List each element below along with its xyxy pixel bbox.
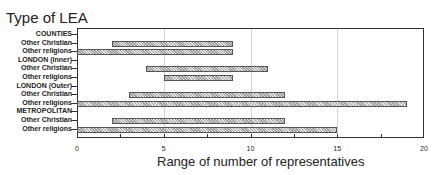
- group-label: COUNTIES: [36, 30, 72, 38]
- x-tick-label: 5: [162, 145, 166, 152]
- range-bar: [77, 101, 407, 107]
- x-tick-label: 10: [247, 145, 255, 152]
- y-tick: [71, 111, 77, 112]
- range-bar: [77, 49, 233, 55]
- range-bar: [112, 41, 233, 47]
- x-tick: [251, 134, 252, 138]
- group-label: LONDON (Inner): [18, 56, 72, 64]
- category-label: Other religions: [22, 99, 72, 107]
- category-label: Other Christian: [21, 90, 72, 98]
- x-tick-label: 0: [75, 145, 79, 152]
- y-tick: [71, 60, 77, 61]
- group-label: METROPOLITAN: [17, 107, 72, 115]
- y-tick: [71, 94, 77, 95]
- range-bar: [77, 127, 337, 133]
- range-bar: [129, 92, 285, 98]
- category-label: Other Christian: [21, 116, 72, 124]
- y-tick: [71, 51, 77, 52]
- x-tick: [294, 134, 295, 138]
- category-label: Other religions: [22, 47, 72, 55]
- y-tick: [71, 129, 77, 130]
- group-label: LONDON (Outer): [16, 82, 72, 90]
- x-tick: [381, 134, 382, 138]
- gridline: [337, 29, 338, 137]
- x-tick: [207, 134, 208, 138]
- y-tick: [71, 77, 77, 78]
- x-tick-label: 20: [420, 145, 428, 152]
- y-tick: [71, 68, 77, 69]
- x-tick: [164, 134, 165, 138]
- range-bar: [112, 118, 286, 124]
- category-label: Other Christian: [21, 64, 72, 72]
- x-tick: [120, 134, 121, 138]
- category-label: Other Christian: [21, 39, 72, 47]
- range-bar: [164, 75, 233, 81]
- y-tick: [71, 103, 77, 104]
- y-tick: [71, 34, 77, 35]
- y-tick: [71, 86, 77, 87]
- x-tick: [337, 134, 338, 138]
- category-label: Other religions: [22, 125, 72, 133]
- y-tick: [71, 43, 77, 44]
- x-tick-label: 15: [333, 145, 341, 152]
- plot-area: [77, 28, 424, 138]
- range-bar: [146, 66, 267, 72]
- category-label: Other religions: [22, 73, 72, 81]
- chart-title: Type of LEA: [6, 9, 88, 26]
- y-tick: [71, 120, 77, 121]
- x-axis-label: Range of number of representatives: [157, 154, 364, 169]
